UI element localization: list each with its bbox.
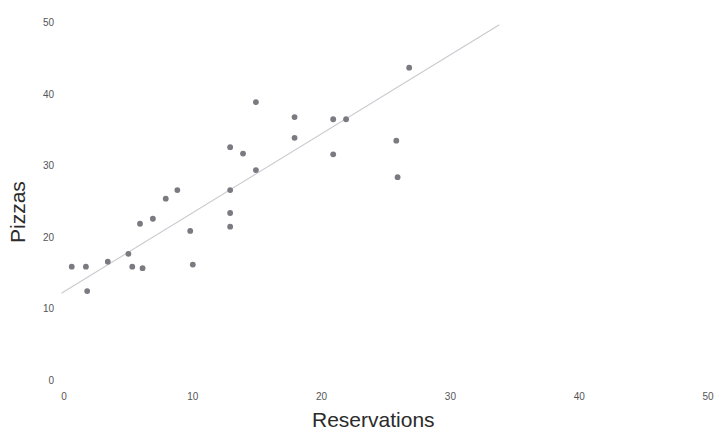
- y-tick-label: 50: [30, 17, 54, 28]
- x-tick-label: 30: [438, 391, 462, 402]
- data-point: [140, 265, 146, 271]
- data-point: [395, 174, 401, 180]
- data-point: [292, 114, 298, 120]
- data-point: [129, 264, 135, 270]
- data-point: [125, 251, 131, 257]
- data-point: [343, 116, 349, 122]
- x-tick-label: 0: [52, 391, 76, 402]
- y-tick-label: 0: [30, 375, 54, 386]
- data-point: [292, 135, 298, 141]
- plot-canvas: [0, 0, 726, 447]
- data-point: [69, 264, 75, 270]
- data-point: [227, 224, 233, 230]
- data-point: [187, 228, 193, 234]
- y-tick-label: 10: [30, 303, 54, 314]
- x-tick-label: 10: [181, 391, 205, 402]
- data-point: [190, 262, 196, 268]
- data-point: [406, 65, 412, 71]
- y-axis-title: Pizzas: [6, 181, 30, 243]
- y-tick-label: 30: [30, 160, 54, 171]
- data-point: [393, 138, 399, 144]
- data-point: [227, 144, 233, 150]
- data-point: [253, 167, 259, 173]
- scatter-plot-figure: 01020304050 01020304050 Reservations Piz…: [0, 0, 726, 447]
- x-tick-label: 50: [696, 391, 720, 402]
- y-tick-label: 40: [30, 89, 54, 100]
- data-point: [227, 210, 233, 216]
- data-point: [83, 264, 89, 270]
- data-points: [69, 65, 412, 294]
- data-point: [253, 99, 259, 105]
- data-point: [137, 221, 143, 227]
- data-point: [84, 288, 90, 294]
- data-point: [105, 259, 111, 265]
- x-tick-label: 40: [567, 391, 591, 402]
- data-point: [150, 216, 156, 222]
- data-point: [163, 196, 169, 202]
- x-axis-title: Reservations: [312, 408, 435, 432]
- data-point: [330, 151, 336, 157]
- data-point: [227, 187, 233, 193]
- y-tick-label: 20: [30, 232, 54, 243]
- data-point: [330, 116, 336, 122]
- data-point: [174, 187, 180, 193]
- x-tick-label: 20: [310, 391, 334, 402]
- data-point: [240, 151, 246, 157]
